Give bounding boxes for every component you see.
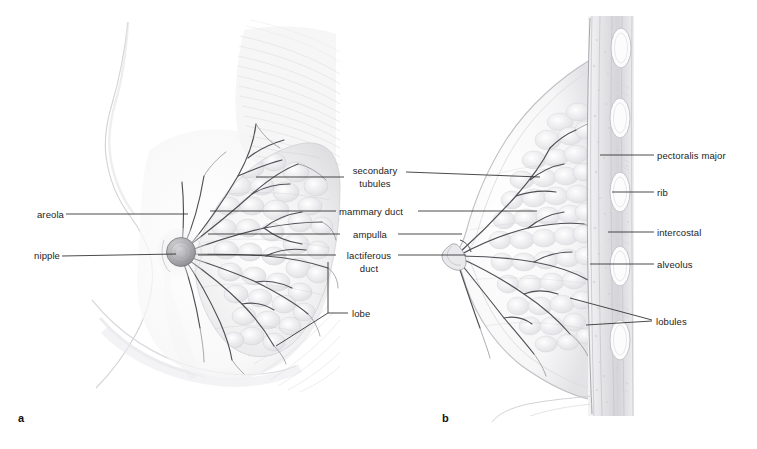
panel-b-illustration [442, 16, 634, 422]
label-lobe: lobe [352, 307, 370, 320]
label-pectoralis-major: pectoralis major [657, 149, 726, 162]
label-areola: areola [0, 208, 64, 221]
label-secondary-tubules-line2: tubules [346, 177, 404, 190]
anatomy-figure: areola nipple secondary tubules mammary … [0, 0, 757, 449]
label-rib: rib [657, 186, 668, 199]
label-lactiferous-duct-line2: duct [340, 262, 398, 275]
panel-tag-b: b [442, 412, 449, 424]
label-ampulla: ampulla [342, 228, 398, 241]
chest-wall-b [587, 16, 634, 416]
label-alveolus: alveolus [657, 258, 693, 271]
anatomy-illustration [0, 0, 757, 449]
panel-tag-a: a [18, 412, 24, 424]
label-intercostal: intercostal [657, 226, 701, 239]
label-mammary-duct: mammary duct [339, 205, 403, 218]
label-nipple: nipple [0, 249, 60, 262]
label-lobules: lobules [656, 315, 687, 328]
panel-a-illustration [92, 20, 360, 392]
label-lactiferous-duct-line1: lactiferous [340, 249, 398, 262]
label-secondary-tubules-line1: secondary [346, 164, 404, 177]
